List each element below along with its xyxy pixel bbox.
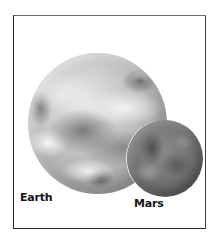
- mars-image: [127, 120, 203, 197]
- earth-label: Earth: [20, 191, 52, 204]
- mars-label: Mars: [134, 197, 164, 210]
